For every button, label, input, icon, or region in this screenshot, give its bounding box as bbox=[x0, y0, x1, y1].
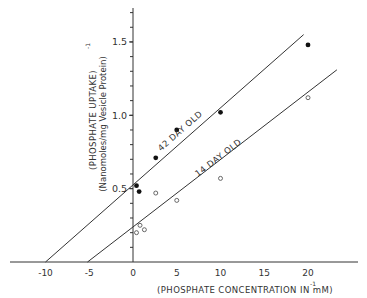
x-axis-label: (PHOSPHATE CONCENTRATION IN mM) bbox=[157, 285, 333, 295]
y-axis-label-superscript: -1 bbox=[84, 43, 91, 49]
x-axis-label-superscript: -1 bbox=[310, 280, 316, 287]
y-tick-label: 1.5 bbox=[112, 36, 127, 47]
filled-circle-marker bbox=[137, 189, 142, 194]
line-label-42-day: 42 DAY OLD bbox=[156, 109, 205, 153]
y-tick-label: 1.0 bbox=[112, 110, 127, 121]
open-circle-marker bbox=[154, 191, 158, 195]
y-axis-label: (PHOSPHATE UPTAKE) bbox=[88, 70, 98, 170]
x-tick-label: -10 bbox=[38, 268, 53, 278]
open-circle-marker bbox=[306, 96, 310, 100]
open-circle-marker bbox=[135, 231, 139, 235]
y-axis-sublabel: (Nanomoles/mg Vesicle Protein) bbox=[98, 56, 108, 191]
x-tick-label: 10 bbox=[215, 268, 227, 278]
filled-circle-marker bbox=[218, 110, 223, 115]
fit-line-42-day bbox=[46, 35, 304, 262]
axes bbox=[10, 8, 358, 262]
labels: 42 DAY OLD14 DAY OLD(PHOSPHATE CONCENTRA… bbox=[84, 43, 333, 295]
line-label-14-day: 14 DAY OLD bbox=[193, 137, 243, 179]
x-tick-label: 15 bbox=[259, 268, 270, 278]
x-tick-label: -5 bbox=[85, 268, 94, 278]
lineweaver-burk-chart: -10-5051015200.51.01.5 42 DAY OLD14 DAY … bbox=[0, 0, 367, 298]
open-circle-marker bbox=[138, 223, 142, 227]
open-circle-marker bbox=[219, 176, 223, 180]
filled-circle-marker bbox=[153, 155, 158, 160]
x-tick-label: 20 bbox=[302, 268, 314, 278]
open-circle-marker bbox=[142, 228, 146, 232]
x-tick-label: 0 bbox=[130, 268, 136, 278]
x-tick-label: 5 bbox=[174, 268, 180, 278]
ticks: -10-5051015200.51.01.5 bbox=[38, 13, 314, 278]
filled-circle-marker bbox=[134, 183, 139, 188]
open-circle-marker bbox=[175, 198, 179, 202]
filled-circle-marker bbox=[306, 42, 311, 47]
